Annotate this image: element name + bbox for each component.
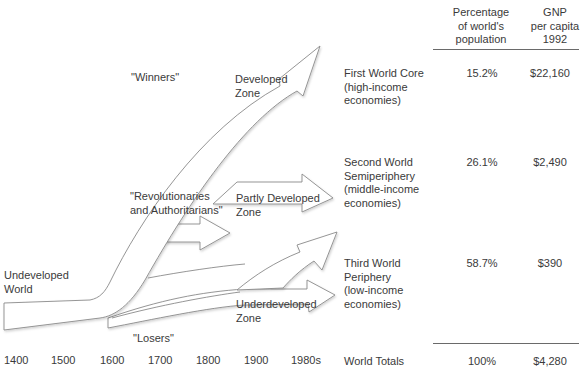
timeline-tick-1500: 1500 (51, 354, 75, 366)
header-population: Percentage of world's population (436, 6, 526, 47)
row-third-world-line3: (low-income (344, 284, 403, 298)
timeline-tick-1800: 1800 (196, 354, 220, 366)
row-second-world-line2: Semiperiphery (344, 170, 419, 184)
row-second-world-label: Second World Semiperiphery (middle-incom… (344, 156, 419, 210)
label-developed-zone: Developed Zone (235, 73, 288, 100)
row-third-world-label: Third World Periphery (low-income econom… (344, 257, 403, 311)
branch-line-middle (148, 264, 245, 278)
row-first-world-line2: (high-income (344, 81, 424, 95)
label-underdeveloped-zone-line2: Zone (236, 312, 317, 326)
row-first-world-label: First World Core (high-income economies) (344, 67, 424, 108)
label-revolutionaries-line2: and Authoritarians" (130, 204, 223, 218)
row-first-world-gnp: $22,160 (520, 67, 580, 81)
row-third-world-line2: Periphery (344, 271, 403, 285)
timeline-tick-1900: 1900 (244, 354, 268, 366)
header-gnp-line1: GNP (520, 6, 581, 20)
label-developed-zone-line2: Zone (235, 87, 288, 101)
timeline-tick-1700: 1700 (148, 354, 172, 366)
label-undeveloped-world-line1: Undeveloped (4, 269, 69, 283)
header-gnp-line3: 1992 (520, 33, 581, 47)
header-divider (433, 49, 579, 50)
row-third-world-line4: economies) (344, 298, 403, 312)
timeline-tick-1980s: 1980s (291, 354, 321, 366)
totals-gnp: $4,280 (520, 355, 580, 369)
row-third-world-line1: Third World (344, 257, 403, 271)
totals-divider (433, 343, 579, 344)
label-undeveloped-world: Undeveloped World (4, 269, 69, 296)
label-underdeveloped-zone-line1: Underdeveloped (236, 298, 317, 312)
row-first-world-line1: First World Core (344, 67, 424, 81)
label-developed-zone-line1: Developed (235, 73, 288, 87)
row-first-world-line3: economies) (344, 94, 424, 108)
timeline-tick-1600: 1600 (100, 354, 124, 366)
row-second-world-line3: (middle-income (344, 183, 419, 197)
row-second-world-gnp: $2,490 (520, 156, 580, 170)
row-second-world-line4: economies) (344, 197, 419, 211)
row-second-world-line1: Second World (344, 156, 419, 170)
label-partly-developed-zone-line1: Partly Developed (236, 192, 320, 206)
label-undeveloped-world-line2: World (4, 283, 69, 297)
label-partly-developed-zone-line2: Zone (236, 206, 320, 220)
header-population-line1: Percentage (436, 6, 526, 20)
timeline-tick-1400: 1400 (4, 354, 28, 366)
arrow-partly-developed-upper-branch (237, 232, 337, 290)
row-second-world-population: 26.1% (452, 156, 512, 170)
label-winners: "Winners" (131, 71, 179, 85)
row-third-world-gnp: $390 (520, 257, 580, 271)
header-population-line2: of world's (436, 20, 526, 34)
totals-label: World Totals (344, 355, 404, 369)
totals-population: 100% (452, 355, 512, 369)
header-population-line3: population (436, 33, 526, 47)
row-first-world-population: 15.2% (452, 67, 512, 81)
label-losers: "Losers" (133, 332, 174, 346)
label-revolutionaries: "Revolutionaries and Authoritarians" (130, 190, 223, 217)
label-partly-developed-zone: Partly Developed Zone (236, 192, 320, 219)
label-revolutionaries-line1: "Revolutionaries (130, 190, 223, 204)
label-underdeveloped-zone: Underdeveloped Zone (236, 298, 317, 325)
header-gnp: GNP per capita 1992 (520, 6, 581, 47)
header-gnp-line2: per capita (520, 20, 581, 34)
row-third-world-population: 58.7% (452, 257, 512, 271)
